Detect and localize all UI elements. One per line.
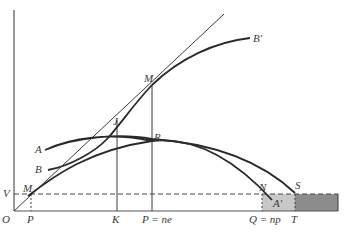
label-k: K	[111, 213, 120, 225]
label-s: S	[295, 179, 301, 191]
label-n: N	[258, 181, 267, 193]
label-q-np: Q = np	[249, 213, 281, 225]
curve-m-r-a-prime	[28, 140, 272, 200]
label-v: V	[3, 187, 11, 199]
diagram-canvas: O V M P K P = ne Q = np T A B B' M J R N…	[0, 0, 345, 232]
label-origin: O	[2, 213, 10, 225]
label-m-low: M	[22, 182, 33, 194]
label-p-low: P	[26, 213, 34, 225]
dark-shaded-region	[295, 194, 338, 211]
ray-from-origin	[14, 14, 224, 211]
label-b-prime: B'	[253, 32, 263, 44]
label-a: A	[34, 143, 42, 155]
label-t: T	[291, 213, 298, 225]
label-r: R	[153, 131, 161, 143]
label-m-high: M	[143, 72, 154, 84]
label-a-prime: A'	[272, 197, 283, 209]
label-p-ne: P = ne	[141, 213, 172, 225]
label-b: B	[35, 163, 42, 175]
